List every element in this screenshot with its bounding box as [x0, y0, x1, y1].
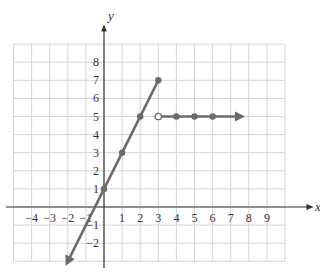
x-tick-label: 6	[210, 211, 216, 225]
y-tick-label: −2	[86, 236, 99, 250]
data-point	[101, 186, 107, 192]
data-point	[119, 150, 125, 156]
y-tick-label: 5	[93, 110, 99, 124]
y-tick-label: 7	[93, 73, 99, 87]
x-axis-label: x	[314, 199, 320, 214]
data-point	[173, 113, 179, 119]
data-point	[137, 113, 143, 119]
x-tick-label: 8	[246, 211, 252, 225]
data-point	[155, 77, 161, 83]
x-tick-label: 4	[173, 211, 179, 225]
x-tick-label: 7	[228, 211, 234, 225]
data-point	[209, 113, 215, 119]
x-tick-label: 2	[137, 211, 143, 225]
y-tick-label: 1	[93, 182, 99, 196]
data-point	[191, 113, 197, 119]
piecewise-graph: xy−4−3−2−1123456789−2−112345678	[0, 0, 320, 277]
x-tick-label: 3	[155, 211, 161, 225]
x-tick-label: −4	[25, 211, 38, 225]
x-tick-label: 5	[192, 211, 198, 225]
y-tick-label: 4	[93, 128, 99, 142]
y-tick-label: 6	[93, 91, 99, 105]
x-tick-label: −2	[61, 211, 74, 225]
x-tick-label: −3	[43, 211, 56, 225]
y-tick-label: 2	[93, 164, 99, 178]
y-tick-label: 3	[93, 146, 99, 160]
x-tick-label: 9	[264, 211, 270, 225]
open-endpoint	[155, 113, 161, 119]
y-axis-label: y	[106, 8, 114, 23]
x-tick-label: 1	[119, 211, 125, 225]
y-tick-label: 8	[93, 55, 99, 69]
